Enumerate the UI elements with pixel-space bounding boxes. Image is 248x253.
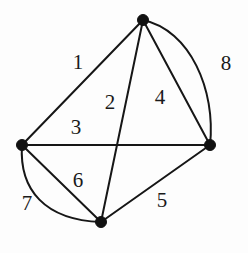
edge-7-label: 7	[22, 193, 33, 214]
edge-1-label: 1	[73, 52, 84, 73]
vertex-right	[205, 140, 216, 151]
vertex-top	[138, 15, 149, 26]
graph-diagram: 12345678	[0, 0, 248, 253]
edges-group	[22, 20, 211, 222]
edge-8-label: 8	[221, 53, 232, 74]
edge-2-label: 2	[105, 92, 116, 113]
edge-1	[22, 20, 143, 145]
edge-4-label: 4	[155, 87, 166, 108]
edge-2	[101, 20, 143, 222]
vertex-bottom	[96, 217, 107, 228]
vertex-left	[17, 140, 28, 151]
graph-canvas	[0, 0, 248, 253]
edge-6	[22, 145, 101, 222]
edge-6-label: 6	[73, 170, 84, 191]
edge-3-label: 3	[71, 117, 82, 138]
edge-5-label: 5	[157, 190, 168, 211]
edge-5	[101, 145, 210, 222]
